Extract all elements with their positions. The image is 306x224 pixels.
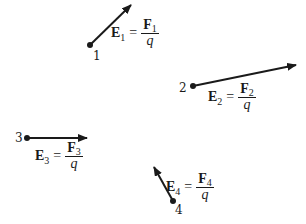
point-dot-icon <box>190 83 196 89</box>
fraction: F2 q <box>238 82 256 112</box>
field-symbol: E4 <box>166 179 180 195</box>
field-equation-1: E1 = F1 q <box>111 18 159 48</box>
point-label-2: 2 <box>179 82 187 94</box>
field-vector-diagram: 1 2 3 4 E1 = F1 q E2 = F2 q E3 = F3 q E4… <box>0 0 306 224</box>
field-symbol: E3 <box>35 148 49 164</box>
charge-denominator: q <box>244 98 251 112</box>
field-equation-3: E3 = F3 q <box>35 141 83 171</box>
field-symbol: E2 <box>208 89 222 105</box>
force-numerator: F3 <box>65 141 83 157</box>
charge-denominator: q <box>71 157 78 171</box>
point-dot-icon <box>24 135 30 141</box>
point-label-4: 4 <box>175 204 183 216</box>
fraction: F3 q <box>65 141 83 171</box>
point-dot-icon <box>87 42 93 48</box>
point-label-3: 3 <box>15 132 23 144</box>
field-symbol: E1 <box>111 25 125 41</box>
field-equation-2: E2 = F2 q <box>208 82 256 112</box>
charge-denominator: q <box>147 34 154 48</box>
force-numerator: F2 <box>238 82 256 98</box>
fraction: F4 q <box>196 172 214 202</box>
force-numerator: F1 <box>141 18 159 34</box>
field-equation-4: E4 = F4 q <box>166 172 214 202</box>
force-numerator: F4 <box>196 172 214 188</box>
equals-sign: = <box>184 179 192 195</box>
equals-sign: = <box>226 89 234 105</box>
fraction: F1 q <box>141 18 159 48</box>
point-label-1: 1 <box>93 50 101 62</box>
charge-denominator: q <box>202 188 209 202</box>
equals-sign: = <box>129 25 137 41</box>
equals-sign: = <box>53 148 61 164</box>
